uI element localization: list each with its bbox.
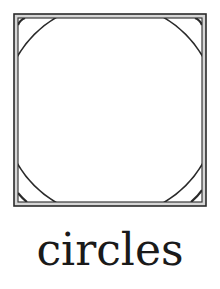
circle-in-square-figure [0,0,220,220]
inner-frame [18,18,202,202]
circle-square-drawing [0,0,220,220]
figure-caption: circles [0,222,220,278]
